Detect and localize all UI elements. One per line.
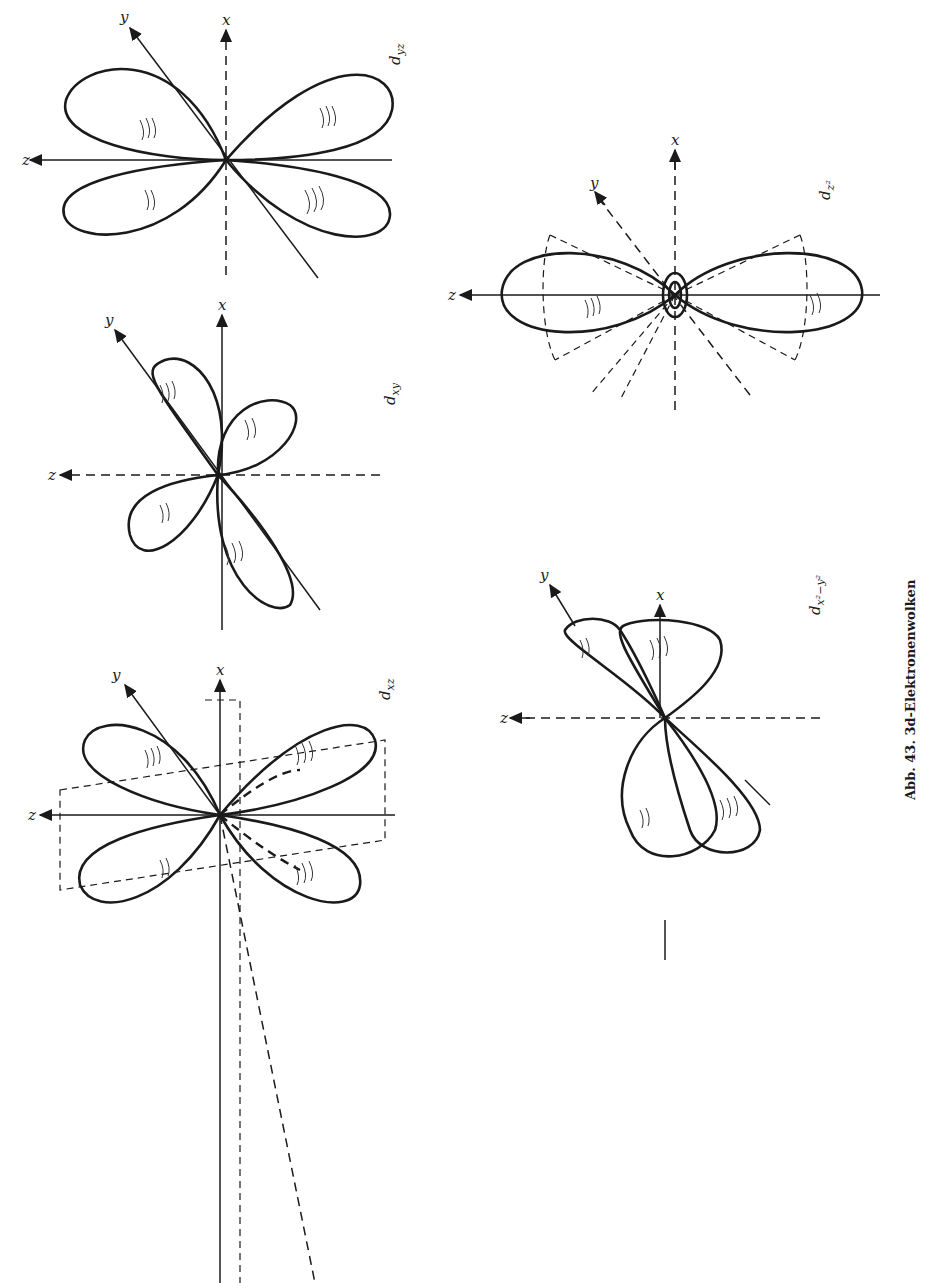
- lobe: [153, 359, 223, 475]
- z-axis-label: z: [499, 709, 508, 727]
- xy-plane: [205, 700, 240, 1283]
- hidden-lobe-edge: [220, 815, 300, 870]
- y-axis-label: y: [104, 311, 114, 329]
- panel-label-dxy: dxy: [381, 382, 402, 405]
- x-axis-label: x: [222, 11, 231, 29]
- x-axis-label: x: [216, 661, 225, 679]
- y-axis: [550, 585, 575, 626]
- lobe: [620, 620, 722, 718]
- figure-caption: Abb. 43. 3d-Elektronenwolken: [903, 579, 918, 801]
- lobe: [226, 160, 390, 237]
- panel-dz2: z x y dz²: [447, 131, 880, 410]
- x-axis-label: x: [671, 131, 680, 149]
- y-axis-arrow: [595, 192, 605, 205]
- z-axis-label: z: [21, 151, 30, 169]
- panel-label-dx2y2: dx²−y²: [806, 575, 827, 615]
- panel-dxz: z x y dxz: [27, 661, 397, 1283]
- lobe: [79, 815, 220, 902]
- panel-dyz: z x y dyz: [21, 8, 407, 278]
- lobe: [63, 160, 226, 235]
- lobe: [622, 718, 717, 856]
- lobe: [65, 69, 226, 160]
- panel-label-dxz: dxz: [376, 678, 397, 700]
- x-axis-label: x: [656, 586, 665, 604]
- y-axis-label: y: [539, 566, 549, 584]
- lobe: [502, 253, 675, 332]
- y-axis-label: y: [111, 666, 121, 684]
- x-axis-label: x: [218, 296, 227, 314]
- y-axis-dashed: [220, 815, 315, 1283]
- y-axis-label: y: [589, 174, 599, 192]
- cone-lines: [590, 295, 675, 400]
- lobe: [220, 815, 360, 902]
- lobe: [129, 475, 218, 551]
- lobe: [217, 475, 293, 608]
- orbital-figure: z x y dyz z x y dxy z x y: [0, 0, 926, 1283]
- y-axis-label: y: [119, 8, 129, 26]
- lobe: [565, 619, 665, 718]
- panel-label-dyz: dyz: [386, 43, 407, 65]
- z-axis-label: z: [27, 806, 36, 824]
- z-axis-label: z: [47, 466, 56, 484]
- panel-label-dz2: dz²: [816, 180, 837, 200]
- lobe: [675, 253, 862, 332]
- z-axis-label: z: [447, 286, 456, 304]
- lobe: [83, 725, 220, 815]
- panel-dx2y2: z x y dx²−y²: [499, 566, 827, 960]
- lobe: [226, 75, 393, 160]
- panel-dxy: z x y dxy: [47, 296, 402, 630]
- lobe: [218, 400, 296, 475]
